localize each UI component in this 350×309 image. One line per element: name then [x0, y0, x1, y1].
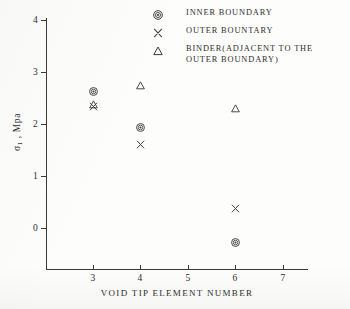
legend-label: OUTER BOUNTARY [186, 26, 344, 37]
data-point [230, 237, 241, 248]
triangle-marker-icon [152, 45, 164, 57]
data-point [88, 99, 99, 110]
data-point [135, 139, 146, 150]
chart-legend: INNER BOUNDARY OUTER BOUNTARY BINDER(ADJ… [152, 8, 344, 69]
legend-label-line2: OUTER BOUNDARY) [186, 55, 344, 66]
data-point [135, 80, 146, 91]
legend-label: INNER BOUNDARY [186, 8, 344, 19]
x-cross-marker-icon [152, 27, 164, 39]
legend-entry-inner-boundary: INNER BOUNDARY [152, 8, 344, 22]
legend-entry-binder: BINDER(ADJACENT TO THEOUTER BOUNDARY) [152, 44, 344, 65]
legend-entry-outer-boundary: OUTER BOUNTARY [152, 26, 344, 40]
data-point [230, 203, 241, 214]
legend-label: BINDER(ADJACENT TO THEOUTER BOUNDARY) [186, 44, 344, 65]
data-point [135, 122, 146, 133]
data-point [230, 103, 241, 114]
data-point [88, 86, 99, 97]
legend-label-line1: BINDER(ADJACENT TO THE [186, 44, 313, 53]
chart-figure: 4 3 2 1 0 3 4 5 6 7 σ1 , Mpa VOID TIP EL… [0, 0, 350, 309]
bullseye-marker-icon [152, 9, 164, 21]
